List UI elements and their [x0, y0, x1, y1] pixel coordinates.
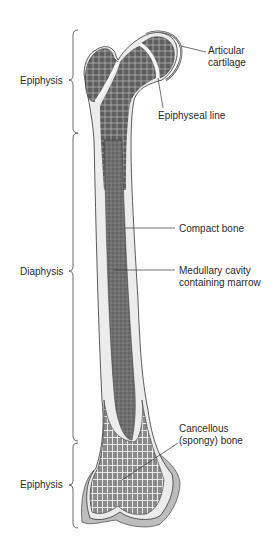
bracket-distal-epiphysis — [69, 443, 78, 528]
label-diaphysis: Diaphysis — [20, 266, 63, 278]
label-epiphysis-proximal: Epiphysis — [20, 75, 63, 87]
bracket-proximal-epiphysis — [69, 30, 78, 133]
label-compact-bone: Compact bone — [179, 223, 244, 235]
label-epiphysis-distal: Epiphysis — [20, 479, 63, 491]
label-articular-cartilage: Articular cartilage — [208, 45, 246, 68]
label-epiphyseal-line: Epiphyseal line — [158, 110, 225, 122]
label-cancellous-bone: Cancellous (spongy) bone — [179, 423, 243, 446]
bracket-diaphysis — [69, 133, 78, 441]
label-medullary-cavity: Medullary cavity containing marrow — [179, 265, 261, 288]
